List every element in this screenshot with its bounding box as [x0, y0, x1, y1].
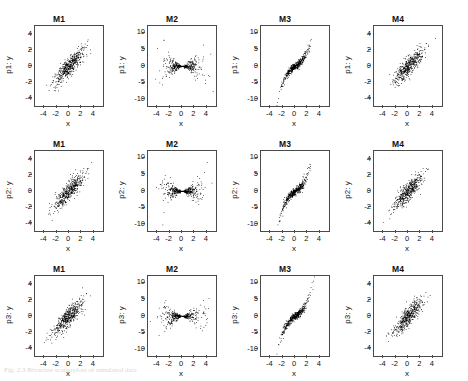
y-axis-ticks: -4-2024 [4, 150, 32, 230]
panel-title: M2 [117, 264, 227, 274]
x-tick-mark [306, 230, 307, 233]
plot-area [260, 275, 330, 357]
y-tick-mark [142, 332, 145, 333]
scatter-panel-m1-row2: M1p2: y-4-2024-4-2024x [4, 139, 114, 257]
x-tick-label: 4 [85, 235, 101, 243]
x-tick-mark [169, 230, 170, 233]
y-tick-mark [368, 347, 371, 348]
plot-area [373, 25, 443, 107]
y-tick-mark [368, 206, 371, 207]
x-tick-label: 4 [198, 235, 214, 243]
y-tick-mark [368, 81, 371, 82]
scatter-panel-m4-row1: M4p1: y-4-2024-4-2024x [343, 14, 453, 132]
y-tick-mark [368, 283, 371, 284]
y-tick-mark [29, 81, 32, 82]
x-tick-label: 4 [311, 235, 327, 243]
x-axis-ticks: -4-2024 [34, 230, 102, 244]
x-tick-mark [193, 230, 194, 233]
x-axis-label: x [147, 119, 215, 129]
y-tick-mark [368, 97, 371, 98]
scatter-panel-m3-row1: M3p1: y-10-50510-4-2024x [230, 14, 340, 132]
scatter-panel-m3-row2: M3p2: y-10-50510-4-2024x [230, 139, 340, 257]
x-tick-mark [306, 355, 307, 358]
plot-area [34, 25, 104, 107]
panel-title: M1 [4, 264, 114, 274]
y-tick-mark [368, 299, 371, 300]
y-tick-mark [142, 98, 145, 99]
x-tick-mark [382, 355, 383, 358]
panel-title: M3 [230, 139, 340, 149]
x-axis-ticks: -4-2024 [373, 230, 441, 244]
x-tick-mark [407, 105, 408, 108]
figure-panel-grid: M1p1: y-4-2024-4-2024xM2p1: y-10-50510-4… [0, 0, 468, 381]
x-tick-mark [93, 355, 94, 358]
plot-area [147, 150, 217, 232]
y-tick-mark [29, 65, 32, 66]
y-tick-mark [142, 157, 145, 158]
y-tick-mark [142, 65, 145, 66]
y-tick-mark [368, 331, 371, 332]
x-axis-label: x [260, 244, 328, 254]
y-tick-mark [142, 298, 145, 299]
y-tick-mark [255, 82, 258, 83]
y-tick-mark [142, 207, 145, 208]
y-tick-mark [142, 48, 145, 49]
x-tick-mark [68, 230, 69, 233]
y-tick-mark [255, 223, 258, 224]
scatter-panel-m2-row1: M2p1: y-10-50510-4-2024x [117, 14, 227, 132]
y-tick-mark [142, 173, 145, 174]
x-axis-label: x [147, 244, 215, 254]
x-tick-mark [193, 355, 194, 358]
scatter-panel-m1-row3: M1p3: y-4-2024-4-2024x [4, 264, 114, 381]
y-tick-mark [29, 347, 32, 348]
x-tick-mark [419, 355, 420, 358]
x-axis-ticks: -4-2024 [373, 105, 441, 119]
x-tick-mark [319, 105, 320, 108]
x-tick-mark [306, 105, 307, 108]
x-tick-mark [282, 105, 283, 108]
y-axis-ticks: -4-2024 [343, 275, 371, 355]
scatter-panel-m2-row3: M2p3: y-10-50510-4-2024x [117, 264, 227, 381]
y-tick-mark [142, 315, 145, 316]
scatter-panel-m1-row1: M1p1: y-4-2024-4-2024x [4, 14, 114, 132]
x-axis-label: x [373, 119, 441, 129]
x-tick-mark [206, 105, 207, 108]
y-axis-ticks: -4-2024 [343, 25, 371, 105]
y-tick-mark [29, 206, 32, 207]
x-axis-ticks: -4-2024 [260, 105, 328, 119]
x-axis-label: x [34, 244, 102, 254]
scatter-panel-m3-row3: M3p3: y-10-50510-4-2024x [230, 264, 340, 381]
x-tick-mark [432, 230, 433, 233]
plot-area [34, 275, 104, 357]
panel-title: M4 [343, 139, 453, 149]
figure-caption: Fig. 2.3 Bivariate scatterplots of simul… [4, 366, 464, 375]
y-tick-mark [255, 65, 258, 66]
panel-title: M4 [343, 264, 453, 274]
x-tick-mark [156, 105, 157, 108]
y-axis-ticks: -10-50510 [117, 275, 145, 355]
panel-title: M3 [230, 264, 340, 274]
y-axis-ticks: -10-50510 [230, 275, 258, 355]
x-tick-label: 4 [85, 110, 101, 118]
x-tick-mark [395, 230, 396, 233]
y-tick-mark [255, 332, 258, 333]
y-tick-mark [255, 98, 258, 99]
y-tick-mark [29, 283, 32, 284]
x-tick-mark [43, 105, 44, 108]
x-tick-mark [80, 230, 81, 233]
y-axis-ticks: -10-50510 [117, 25, 145, 105]
y-tick-mark [29, 222, 32, 223]
x-tick-label: 4 [424, 110, 440, 118]
y-tick-mark [29, 158, 32, 159]
y-tick-mark [255, 173, 258, 174]
x-tick-mark [282, 355, 283, 358]
y-axis-ticks: -4-2024 [4, 275, 32, 355]
x-tick-mark [56, 355, 57, 358]
x-axis-label: x [34, 119, 102, 129]
plot-area [373, 275, 443, 357]
y-tick-mark [142, 282, 145, 283]
x-tick-mark [193, 105, 194, 108]
y-axis-ticks: -10-50510 [117, 150, 145, 230]
y-tick-mark [368, 190, 371, 191]
y-tick-mark [29, 315, 32, 316]
